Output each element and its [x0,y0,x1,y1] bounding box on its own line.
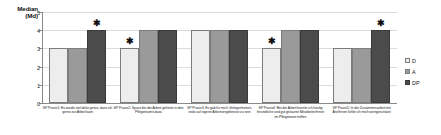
legend-swatch-icon [405,80,410,85]
plot-area: 012345 ✱✱✱✱ [42,12,397,104]
bar-a [68,48,87,103]
bar-dp [158,30,177,103]
bar-group [326,12,397,103]
y-axis-tick-label: 0 [32,101,40,107]
x-axis-category-label: SP Praxis4: Bei der Arbeit konnte ich hä… [255,106,326,119]
legend-item[interactable]: A [405,67,439,76]
y-axis-tick-label: 2 [32,65,40,71]
y-axis-tick-label: 4 [32,28,40,34]
bar-a [210,30,229,103]
x-axis-category-label: SP Praxis2: Spass bei der Arbeit gehörte… [113,106,184,115]
bar-d [333,48,352,103]
bar-dp [229,30,248,103]
x-axis-category-label: SP Praxis5: In der Zusammenarbeit mit Är… [326,106,397,115]
legend-item[interactable]: D [405,56,439,65]
bar-group [184,12,255,103]
x-axis-category-label: SP Praxis3: Es gab für mich Gelegenheite… [184,106,255,115]
bar-a [352,48,371,103]
bar-a [139,30,158,103]
legend-label: DP [412,80,420,86]
y-axis-tick-label: 3 [32,46,40,52]
x-axis-category-labels: SP Praxis1: Es wurde viel dafür getan, d… [42,106,397,134]
bars-row [113,12,184,103]
x-axis-line [42,103,397,104]
bar-dp [371,30,390,103]
bar-d [49,48,68,103]
bar-d [262,48,281,103]
legend-item[interactable]: DP [405,78,439,87]
bar-group [255,12,326,103]
y-axis-tick-label: 5 [32,10,40,16]
legend-label: D [412,58,416,64]
bar-dp [87,30,106,103]
bar-a [281,30,300,103]
bar-d [191,30,210,103]
y-axis-tick-label: 1 [32,83,40,89]
bar-dp [300,30,319,103]
bar-group [42,12,113,103]
chart-legend: DADP [405,56,439,89]
legend-swatch-icon [405,69,410,74]
bars-row [42,12,113,103]
bars-row [326,12,397,103]
x-axis-category-label: SP Praxis1: Es wurde viel dafür getan, d… [42,106,113,115]
bars-row [184,12,255,103]
bars-row [255,12,326,103]
legend-label: A [412,69,416,75]
legend-swatch-icon [405,58,410,63]
bar-chart: Median (Md) 012345 ✱✱✱✱ SP Praxis1: Es w… [0,0,441,135]
bar-group [113,12,184,103]
bar-d [120,48,139,103]
